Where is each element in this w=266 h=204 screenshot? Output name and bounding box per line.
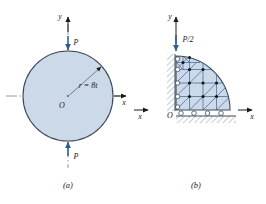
roller-support <box>175 81 179 85</box>
radius-label: r = 8t <box>79 81 99 90</box>
panel-a-origin-label: O <box>59 101 65 110</box>
left-wall-hatch <box>167 54 175 111</box>
mesh-node <box>215 81 218 84</box>
roller-support <box>175 67 179 71</box>
mesh-node <box>182 61 185 64</box>
roller-support <box>175 105 179 109</box>
engineering-figure: y x O r = 8t P P (a) <box>0 0 266 204</box>
bottom-ground-hatch <box>176 116 236 123</box>
mesh-node <box>188 56 191 59</box>
load-label-bottom: P <box>73 152 79 161</box>
mesh-node <box>215 95 218 98</box>
roller-support <box>179 111 184 116</box>
roller-support <box>175 57 179 61</box>
roller-support <box>175 94 179 98</box>
panel-b-caption: (b) <box>191 180 201 190</box>
mesh-node <box>188 68 191 71</box>
mesh-node <box>201 81 204 84</box>
panel-b-origin-label: O <box>167 111 173 120</box>
panel-a-origin-dot <box>67 95 69 97</box>
panel-b-x-axis-label-right: x <box>249 112 254 121</box>
bottom-roller-supports <box>179 111 224 116</box>
mesh-node <box>188 81 191 84</box>
mesh-node <box>201 95 204 98</box>
panel-b-x-axis-label-left: x <box>137 112 142 121</box>
panel-a-y-axis-label: y <box>57 12 62 21</box>
figure-container: y x O r = 8t P P (a) <box>0 0 266 204</box>
panel-b-y-axis-label: y <box>167 12 172 21</box>
panel-b: y x x O P/2 (b) <box>134 12 254 190</box>
panel-a: y x O r = 8t P P (a) <box>6 12 126 190</box>
mesh-node <box>188 95 191 98</box>
roller-support <box>192 111 197 116</box>
panel-a-x-axis-label: x <box>121 98 126 107</box>
roller-support <box>205 111 210 116</box>
mesh-node <box>201 68 204 71</box>
roller-support <box>219 111 224 116</box>
load-label-top: P <box>73 38 79 47</box>
panel-a-caption: (a) <box>63 180 73 190</box>
load-label-half: P/2 <box>181 35 193 44</box>
